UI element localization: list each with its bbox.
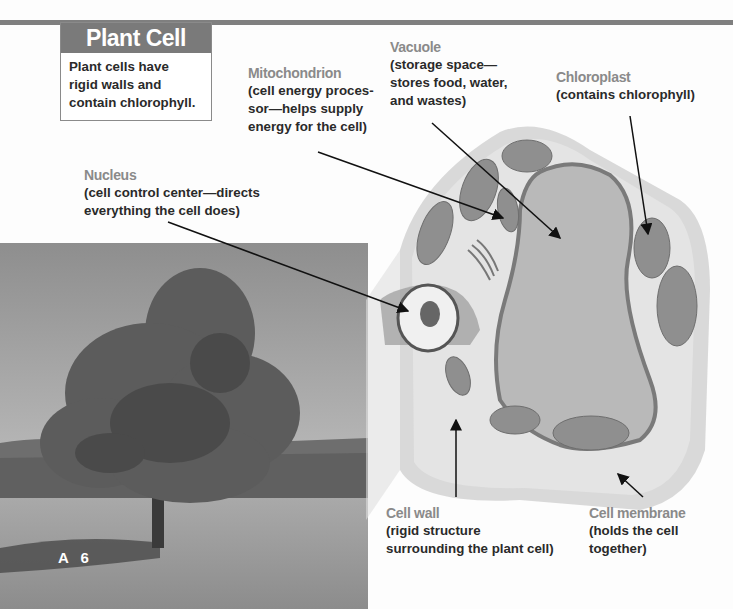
mitochondrion-pointer — [318, 152, 503, 218]
title-box: Plant Cell Plant cells have rigid walls … — [60, 22, 212, 121]
label-line: (rigid structure — [386, 522, 554, 540]
vacuole-pointer — [432, 123, 560, 238]
vacuole-shape — [496, 164, 656, 449]
label-mitochondrion: Mitochondrion (cell energy proces- sor—h… — [248, 64, 374, 136]
label-line: (contains chlorophyll) — [556, 86, 695, 104]
tree-photo — [0, 243, 368, 609]
label-heading: Cell membrane — [589, 504, 685, 522]
chloroplast-pointer — [630, 116, 648, 234]
label-heading: Chloroplast — [556, 68, 695, 86]
label-chloroplast: Chloroplast (contains chlorophyll) — [556, 68, 695, 104]
label-line: (storage space— — [390, 56, 507, 74]
page-title: Plant Cell — [61, 23, 211, 53]
description-line: rigid walls and — [69, 76, 203, 94]
label-line: (cell energy proces- — [248, 82, 374, 100]
label-line: (cell control center—directs — [84, 184, 260, 202]
label-cell-wall: Cell wall (rigid structure surrounding t… — [386, 504, 554, 558]
title-description: Plant cells have rigid walls and contain… — [61, 53, 211, 120]
description-line: Plant cells have — [69, 58, 203, 76]
label-cell-membrane: Cell membrane (holds the cell together) — [589, 504, 685, 558]
label-heading: Nucleus — [84, 166, 260, 184]
label-heading: Mitochondrion — [248, 64, 374, 82]
label-line: sor—helps supply — [248, 100, 374, 118]
nucleus-shape — [380, 285, 480, 351]
label-line: stores food, water, — [390, 74, 507, 92]
label-line: surrounding the plant cell) — [386, 540, 554, 558]
label-line: everything the cell does) — [84, 202, 260, 220]
label-vacuole: Vacuole (storage space— stores food, wat… — [390, 38, 507, 110]
cytoplasm-shape — [412, 139, 695, 495]
label-line: (holds the cell — [589, 522, 685, 540]
label-line: together) — [589, 540, 685, 558]
label-line: and wastes) — [390, 92, 507, 110]
label-line: energy for the cell) — [248, 118, 374, 136]
cell-wall-shape — [400, 126, 710, 510]
description-line: contain chlorophyll. — [69, 94, 203, 112]
page-number: A 6 — [58, 549, 93, 566]
label-heading: Vacuole — [390, 38, 507, 56]
label-heading: Cell wall — [386, 504, 554, 522]
cell-membrane-pointer — [618, 474, 643, 497]
label-nucleus: Nucleus (cell control center—directs eve… — [84, 166, 260, 220]
